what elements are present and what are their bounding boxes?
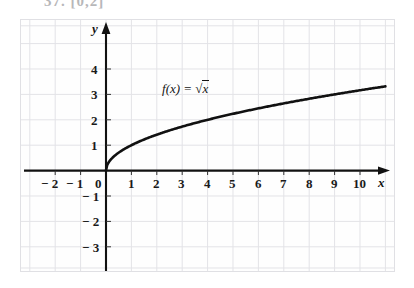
graph-plot-svg	[20, 19, 395, 272]
function-label-radicand: x	[202, 80, 209, 97]
y-tick-label-1: 1	[91, 138, 98, 154]
x-tick-label-5: 5	[229, 176, 236, 192]
y-tick-label-4: 4	[91, 62, 98, 78]
y-tick-label-2: 2	[91, 113, 98, 129]
x-tick-label-4: 4	[204, 176, 211, 192]
y-tick-label--3: − 3	[82, 240, 99, 256]
y-tick-label--2: − 2	[82, 214, 99, 230]
x-tick-label-7: 7	[280, 176, 287, 192]
x-tick-label-9: 9	[331, 176, 338, 192]
exercise-header-text: 37. [0,2]	[44, 0, 104, 10]
x-tick-label-2: 2	[153, 176, 160, 192]
x-tick-label--1: − 1	[66, 176, 83, 192]
x-axis-label: x	[378, 175, 385, 191]
y-axis-label: y	[92, 21, 98, 37]
graph-figure: − 2 − 1 0 1 2 3 4 5 6 7 8 9 10 4 3 2 1 −…	[20, 19, 395, 272]
x-tick-label-8: 8	[306, 176, 313, 192]
x-tick-label-1: 1	[128, 176, 135, 192]
function-equation-label: f(x) = √x	[162, 80, 209, 97]
x-tick-label-10: 10	[353, 176, 366, 192]
x-tick-label--2: − 2	[41, 176, 58, 192]
y-tick-label-3: 3	[91, 87, 98, 103]
x-tick-label-3: 3	[178, 176, 185, 192]
y-tick-label--1: − 1	[82, 189, 99, 205]
function-label-arg: (x) =	[166, 81, 196, 96]
x-tick-label-6: 6	[255, 176, 262, 192]
